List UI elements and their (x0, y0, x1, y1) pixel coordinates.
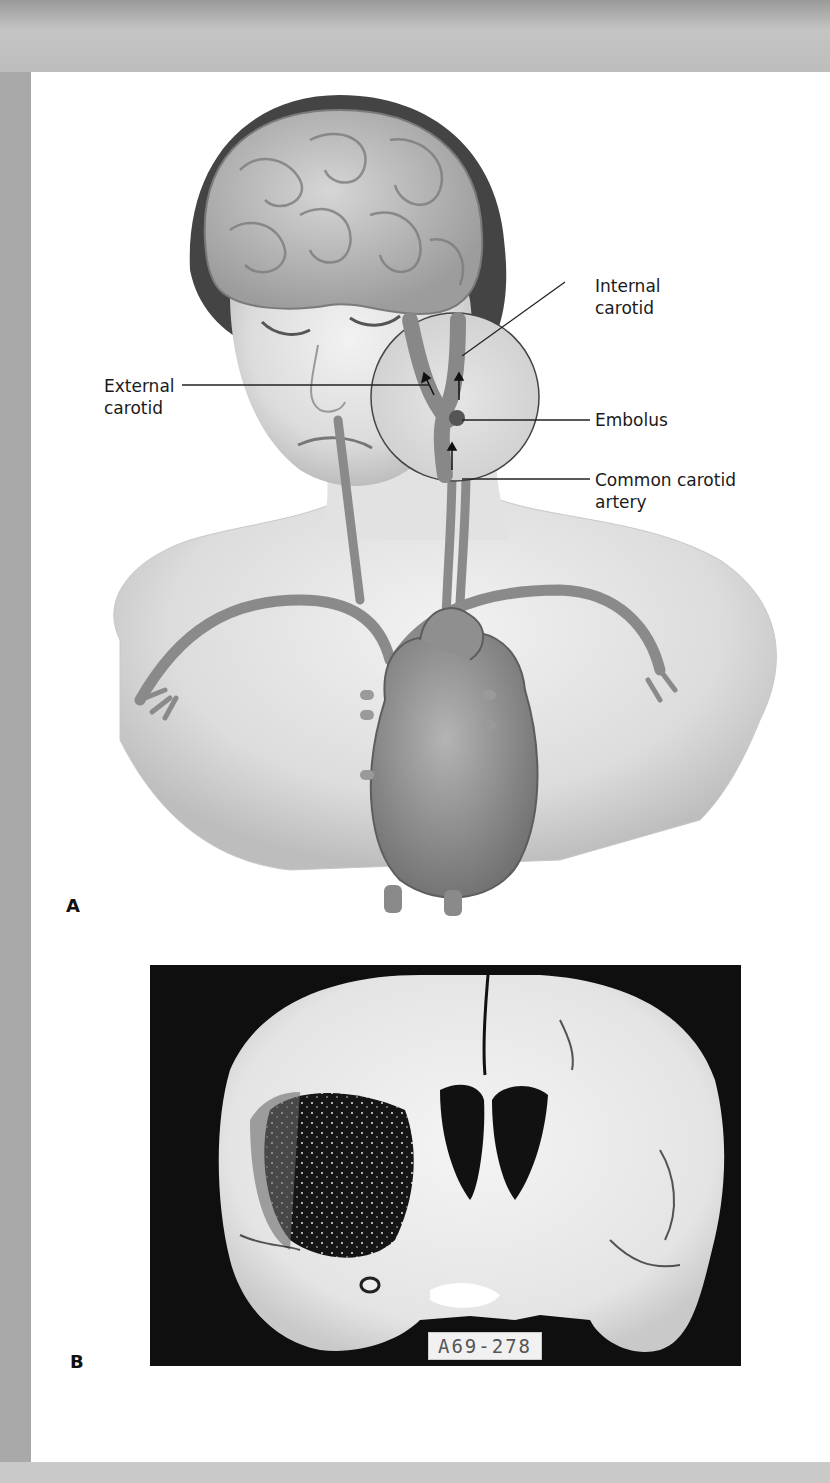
label-internal-carotid-2: carotid (595, 298, 654, 318)
label-internal-carotid-1: Internal (595, 276, 661, 296)
label-common-carotid-1: Common carotid (595, 470, 736, 490)
label-common-carotid-2: artery (595, 492, 647, 512)
panel-letter-b: B (70, 1351, 84, 1372)
label-external-carotid-1: External (104, 376, 175, 396)
panel-letter-a: A (66, 895, 80, 916)
brain-shape (205, 110, 482, 314)
label-embolus: Embolus (595, 410, 668, 430)
carotid-embolus-illustration: Internal carotid External carotid Embolu… (0, 0, 830, 960)
scan-frame-bottom (0, 1462, 830, 1483)
specimen-label: A69-278 (428, 1332, 542, 1360)
embolus (449, 410, 465, 426)
label-external-carotid-2: carotid (104, 398, 163, 418)
